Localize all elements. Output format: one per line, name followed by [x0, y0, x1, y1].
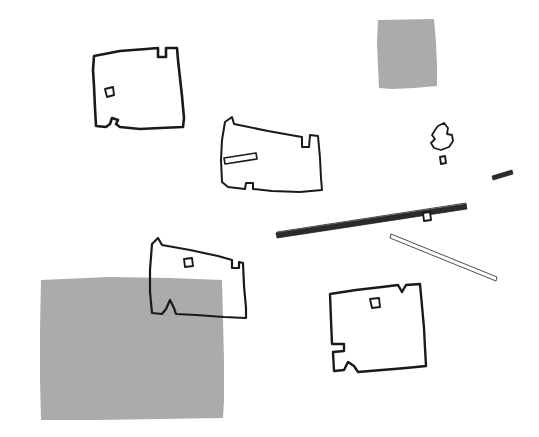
marker-top-left	[105, 87, 114, 97]
sketch-canvas	[0, 0, 539, 437]
marker-bottom-right	[370, 298, 380, 308]
marker-lower-middle	[184, 258, 193, 267]
gray-block-bottom-left	[40, 277, 224, 420]
marker-beside-long-bar	[423, 212, 431, 221]
marker-below-polygon	[440, 156, 446, 164]
sketch-svg	[0, 0, 539, 437]
gray-block-top-right	[377, 19, 437, 89]
